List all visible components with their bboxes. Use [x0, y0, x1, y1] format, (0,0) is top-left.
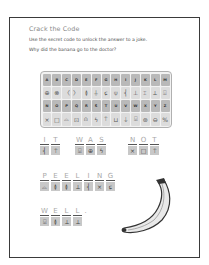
answer-letter: T: [53, 136, 57, 144]
answer-slot: I⎨: [40, 136, 49, 155]
answer-letter: W: [76, 136, 83, 144]
answer-word-well: W⍌E≬L⟂L⟂.: [40, 207, 87, 226]
answer-underline: [40, 215, 49, 216]
answer-symbol: ⨯: [95, 182, 104, 191]
code-letter: U: [111, 100, 120, 112]
answer-letter: L: [76, 172, 80, 180]
answer-letter: S: [99, 136, 103, 144]
answer-letter: N: [97, 172, 102, 180]
answer-letter: P: [42, 172, 46, 180]
answer-underline: [73, 180, 82, 181]
code-letter: L: [151, 74, 160, 86]
code-letter: R: [82, 100, 91, 112]
answer-letter: W: [41, 207, 48, 215]
answer-letter: L: [65, 207, 69, 215]
code-letter: D: [72, 74, 81, 86]
answer-symbol: ⌓: [40, 182, 49, 191]
joke-question: Why did the banana go to the doctor?: [29, 47, 116, 52]
code-symbol: 〈: [62, 87, 71, 99]
code-letter: I: [121, 74, 130, 86]
answer-symbol: ≬: [51, 217, 60, 226]
answer-symbol: ⍌: [75, 146, 84, 155]
code-letter: J: [131, 74, 140, 86]
code-symbol: ϟ: [92, 113, 101, 125]
code-symbol: □: [52, 113, 61, 125]
code-letter: K: [141, 74, 150, 86]
answer-slot: E≬: [51, 172, 60, 191]
answer-letter: E: [53, 172, 57, 180]
answer-underline: [150, 144, 159, 145]
code-letter: C: [62, 74, 71, 86]
answer-slot: I⎨: [84, 172, 93, 191]
answer-word-peeling: P⌓E≬E≬L⟂I⎨N⨯Gɕ: [40, 172, 115, 191]
answer-underline: [62, 180, 71, 181]
answer-underline: [128, 144, 137, 145]
code-symbol: ⊗: [52, 87, 61, 99]
answer-underline: [51, 215, 60, 216]
answer-slot: T⍑: [150, 136, 159, 155]
code-symbol: ⍌: [131, 113, 140, 125]
answer-slot: W⍌: [40, 207, 49, 226]
code-letter: A: [43, 74, 52, 86]
code-symbol: ⏚: [92, 87, 101, 99]
answer-symbol: □: [139, 146, 148, 155]
code-symbol: ⍑: [102, 113, 111, 125]
code-symbol: ≬: [82, 87, 91, 99]
answer-letter: .: [84, 207, 86, 215]
code-symbol: ⊛: [141, 113, 150, 125]
answer-underline: [86, 144, 95, 145]
answer-symbol: ≬: [62, 182, 71, 191]
code-letter: V: [121, 100, 130, 112]
code-letter: Y: [151, 100, 160, 112]
code-letter: G: [102, 74, 111, 86]
answer-word-not: N⨯O□T⍑: [128, 136, 159, 155]
answer-letter: E: [53, 207, 57, 215]
answer-slot: E≬: [51, 207, 60, 226]
code-letter: Z: [161, 100, 170, 112]
answer-slot: E≬: [62, 172, 71, 191]
answer-symbol: ⎨: [84, 182, 93, 191]
code-symbol: ⌓: [62, 113, 71, 125]
code-symbol: ⌶: [141, 87, 150, 99]
answer-underline: [40, 144, 49, 145]
answer-slot: T⍑: [51, 136, 60, 155]
answer-word-it: I⎨T⍑: [40, 136, 60, 155]
answer-slot: W⍌: [75, 136, 84, 155]
answer-underline: [73, 215, 82, 216]
answer-letter: A: [88, 136, 93, 144]
code-letter: M: [161, 74, 170, 86]
answer-symbol: ⎨: [40, 146, 49, 155]
code-symbol: ⊕: [43, 87, 52, 99]
answer-symbol: ⟂: [73, 182, 82, 191]
code-symbol: 〉: [72, 87, 81, 99]
code-symbol: ɕ: [102, 87, 111, 99]
code-letter: O: [52, 100, 61, 112]
answer-symbol: ⟂: [73, 217, 82, 226]
answer-word-was: W⍌A⊕Sϟ: [75, 136, 106, 155]
answer-underline: [62, 215, 71, 216]
code-letter: X: [141, 100, 150, 112]
code-symbol: ⍗: [161, 87, 170, 99]
answer-underline: [51, 144, 60, 145]
answer-symbol: ⍌: [40, 217, 49, 226]
code-letter: H: [111, 74, 120, 86]
answer-symbol: ⟂: [62, 217, 71, 226]
code-letter: P: [62, 100, 71, 112]
code-symbol: ⊥: [131, 87, 140, 99]
code-letter: B: [52, 74, 61, 86]
answer-symbol: ⊕: [86, 146, 95, 155]
code-symbol: ⎨: [121, 87, 130, 99]
code-symbol: ⨯: [43, 113, 52, 125]
answer-slot: P⌓: [40, 172, 49, 191]
answer-symbol: ⍑: [51, 146, 60, 155]
banana-illustration: [118, 176, 178, 236]
answer-symbol: ɕ: [106, 182, 115, 191]
answer-letter: T: [152, 136, 156, 144]
answer-underline: [40, 180, 49, 181]
code-symbol: ⍊: [121, 113, 130, 125]
answer-slot: L⟂: [73, 172, 82, 191]
answer-slot: N⨯: [128, 136, 137, 155]
code-symbol: ⊡: [72, 113, 81, 125]
code-letter: N: [43, 100, 52, 112]
answer-letter: N: [130, 136, 135, 144]
